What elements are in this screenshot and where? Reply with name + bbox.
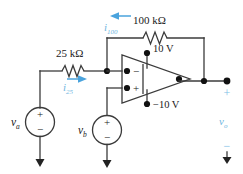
i25-arrow-head <box>78 75 87 83</box>
current-i100-arrow <box>110 12 131 20</box>
circuit-schematic-canvas: 100 kΩ i100 25 kΩ i25 − <box>0 0 243 174</box>
current-i25-label: i25 <box>63 81 74 96</box>
rail-positive-label: 10 V <box>153 43 174 54</box>
feedback-resistor-label: 100 kΩ <box>133 14 166 26</box>
output-voltage-label: vo <box>219 115 228 130</box>
source-b-label: vb <box>78 124 87 139</box>
source-b-plus-sign: + <box>104 116 110 128</box>
output-plus-sign: + <box>224 86 231 100</box>
source-a-ground-arrowhead <box>36 159 45 167</box>
opamp-noninverting-sign: + <box>133 82 139 94</box>
i100-arrow-head <box>110 12 119 20</box>
source-a-ground-symbol <box>36 159 45 167</box>
opamp-inverting-terminal-dot <box>124 68 130 74</box>
rail-negative-dot <box>144 101 150 107</box>
opamp-noninverting-terminal-dot <box>124 85 130 91</box>
source-a-plus-sign: + <box>37 108 43 120</box>
source-b-ground-arrowhead <box>103 160 112 168</box>
input-resistor-symbol <box>62 66 84 77</box>
current-i100-label: i100 <box>104 21 118 36</box>
output-junction-dot <box>201 78 207 84</box>
circuit-diagram: 100 kΩ i100 25 kΩ i25 − <box>0 0 243 174</box>
source-a-label: va <box>11 116 20 131</box>
output-minus-sign: − <box>224 139 231 153</box>
opamp-inverting-sign: − <box>133 65 139 77</box>
source-a-minus-sign: − <box>37 123 43 135</box>
output-ground-arrowhead <box>223 157 232 164</box>
output-terminal-dot <box>224 78 231 85</box>
rail-positive-dot <box>144 50 150 56</box>
source-b-minus-sign: − <box>104 131 110 143</box>
output-ground-symbol <box>223 152 232 164</box>
rail-negative-label: −10 V <box>153 99 180 110</box>
source-b-ground-symbol <box>103 160 112 168</box>
input-resistor-label: 25 kΩ <box>56 47 83 59</box>
